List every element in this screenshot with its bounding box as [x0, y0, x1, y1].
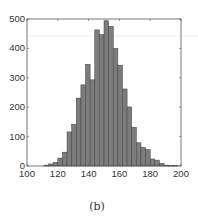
- histogram-bar: [113, 48, 118, 166]
- x-tick-label: 120: [50, 168, 66, 179]
- figure-caption: (b): [89, 200, 105, 213]
- histogram-bar: [155, 160, 160, 166]
- histogram-bar: [62, 152, 67, 166]
- x-tick-label: 140: [81, 168, 97, 179]
- histogram-bar: [127, 107, 132, 166]
- y-tick-label: 300: [9, 72, 25, 83]
- histogram-bar: [86, 64, 91, 166]
- histogram-bar: [81, 85, 86, 166]
- histogram-bar: [99, 35, 104, 166]
- histogram-bar: [122, 89, 127, 166]
- y-tick-label: 200: [9, 101, 25, 112]
- histogram-bar: [76, 98, 81, 166]
- histogram-bar: [72, 124, 77, 166]
- histogram-bar: [109, 26, 114, 166]
- histogram-bar: [58, 158, 63, 166]
- y-tick-label: 100: [9, 131, 25, 142]
- histogram-bar: [150, 159, 155, 166]
- x-tick-label: 160: [111, 168, 127, 179]
- y-tick-label: 0: [20, 160, 25, 171]
- histogram-bar: [132, 127, 137, 166]
- histogram-bar: [118, 65, 123, 166]
- histogram-bar: [95, 30, 100, 166]
- histogram-bar: [67, 132, 72, 166]
- histogram-bars: [44, 21, 178, 166]
- x-tick-label: 200: [173, 168, 189, 179]
- histogram-bar: [104, 21, 109, 166]
- histogram-bar: [141, 147, 146, 166]
- y-tick-label: 500: [9, 13, 25, 24]
- y-tick-label: 400: [9, 42, 25, 53]
- histogram-bar: [136, 143, 141, 166]
- histogram-bar: [53, 162, 58, 166]
- histogram-bar: [146, 150, 151, 166]
- histogram-bar: [90, 80, 95, 166]
- x-tick-label: 180: [142, 168, 158, 179]
- histogram-chart: 100120140160180200 0100200300400500 (b): [0, 0, 198, 218]
